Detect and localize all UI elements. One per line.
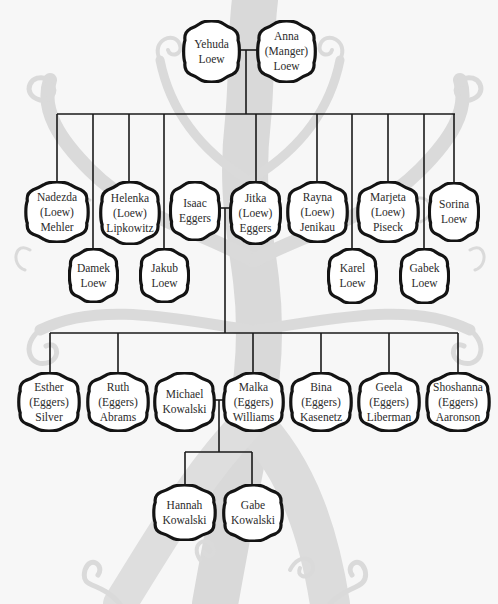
name-line: Hannah xyxy=(167,498,203,513)
person-node-yehuda-loew: YehudaLoew xyxy=(182,20,241,83)
name-line: Loew xyxy=(339,276,365,291)
name-line: Ruth xyxy=(107,380,129,395)
name-line: Jakub xyxy=(151,261,178,276)
name-line: Gabek xyxy=(409,261,439,276)
name-line: Kowalski xyxy=(162,513,206,528)
name-line: Isaac xyxy=(183,196,207,211)
person-node-gabe-kowalski: GabeKowalski xyxy=(222,484,284,542)
name-line: Loew xyxy=(411,276,437,291)
name-line: (Eggers) xyxy=(369,395,409,410)
name-line: Aaronson xyxy=(436,410,481,425)
name-line: Loew xyxy=(151,276,177,291)
name-line: Liberman xyxy=(367,410,412,425)
name-line: Piseck xyxy=(373,220,403,235)
name-line: Rayna xyxy=(303,190,332,205)
name-line: (Loew) xyxy=(239,206,273,221)
person-node-malka-eggers-williams: Malka(Eggers)Williams xyxy=(222,372,285,432)
name-line: Yehuda xyxy=(194,37,229,52)
name-line: Nadezda xyxy=(37,190,77,205)
name-line: Kowalski xyxy=(162,402,206,417)
name-line: (Eggers) xyxy=(438,395,478,410)
name-line: (Manger) xyxy=(265,44,308,59)
name-line: (Eggers) xyxy=(98,395,138,410)
name-line: Loew xyxy=(273,59,299,74)
name-line: Geela xyxy=(376,380,403,395)
name-line: Sorina xyxy=(439,197,469,212)
name-line: Michael xyxy=(166,387,204,402)
name-line: Bina xyxy=(310,380,332,395)
name-line: Mehler xyxy=(40,220,73,235)
name-line: Malka xyxy=(239,380,268,395)
name-line: Silver xyxy=(35,410,62,425)
person-node-shoshanna-eggers-aaronson: Shoshanna(Eggers)Aaronson xyxy=(425,372,491,432)
name-line: (Eggers) xyxy=(234,395,274,410)
name-line: (Loew) xyxy=(371,205,405,220)
person-node-bina-eggers-kasenetz: Bina(Eggers)Kasenetz xyxy=(289,372,353,432)
name-line: (Eggers) xyxy=(301,395,341,410)
person-node-helenka-loew-lipkowitz: Helenka(Loew)Lipkowitz xyxy=(99,181,161,245)
person-node-gabek-loew: GabekLoew xyxy=(399,248,450,304)
name-line: (Loew) xyxy=(40,205,74,220)
person-node-jakub-loew: JakubLoew xyxy=(139,248,190,303)
name-line: Williams xyxy=(233,410,275,425)
person-node-jitka-loew-eggers: Jitka(Loew)Eggers xyxy=(229,181,282,245)
name-line: (Loew) xyxy=(301,205,335,220)
person-node-marjeta-loew-piseck: Marjeta(Loew)Piseck xyxy=(356,181,420,243)
person-node-nadezda-loew-mehler: Nadezda(Loew)Mehler xyxy=(24,181,90,243)
name-line: Marjeta xyxy=(370,190,406,205)
person-node-michael-kowalski: MichaelKowalski xyxy=(153,372,216,432)
name-line: Abrams xyxy=(100,410,136,425)
name-line: Loew xyxy=(80,276,106,291)
name-line: Eggers xyxy=(179,211,211,226)
name-line: Kasenetz xyxy=(300,410,342,425)
person-node-ruth-eggers-abrams: Ruth(Eggers)Abrams xyxy=(86,372,150,432)
name-line: Karel xyxy=(340,261,366,276)
name-line: Anna xyxy=(274,29,299,44)
name-line: (Loew) xyxy=(113,206,147,221)
name-line: Jenikau xyxy=(300,220,335,235)
person-node-karel-loew: KarelLoew xyxy=(327,248,378,304)
person-node-rayna-loew-jenikau: Rayna(Loew)Jenikau xyxy=(286,181,349,243)
name-line: Damek xyxy=(77,261,110,276)
name-line: Lipkowitz xyxy=(106,221,153,236)
person-node-sorina-loew: SorinaLoew xyxy=(428,182,480,242)
person-node-damek-loew: DamekLoew xyxy=(68,248,119,303)
name-line: Loew xyxy=(198,52,224,67)
person-node-anna-manger-loew: Anna(Manger)Loew xyxy=(256,20,317,83)
name-line: Gabe xyxy=(241,498,265,513)
name-line: Eggers xyxy=(240,221,272,236)
name-line: Loew xyxy=(441,212,467,227)
person-node-geela-eggers-liberman: Geela(Eggers)Liberman xyxy=(357,372,421,432)
name-line: Helenka xyxy=(111,191,149,206)
name-line: (Eggers) xyxy=(29,395,69,410)
person-node-isaac-eggers: IsaacEggers xyxy=(169,181,221,241)
name-line: Kowalski xyxy=(231,513,275,528)
name-line: Shoshanna xyxy=(433,380,483,395)
person-node-hannah-kowalski: HannahKowalski xyxy=(152,484,217,541)
name-line: Jitka xyxy=(245,191,267,206)
name-line: Esther xyxy=(34,380,63,395)
person-node-esther-eggers-silver: Esther(Eggers)Silver xyxy=(17,372,81,432)
